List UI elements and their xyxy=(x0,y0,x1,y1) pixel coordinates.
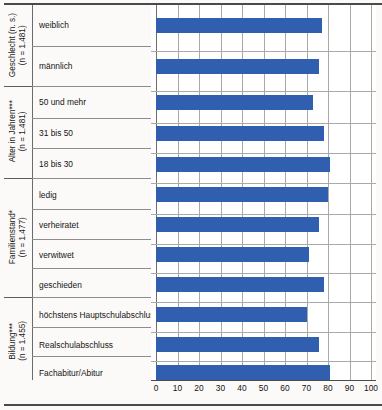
gridline-80 xyxy=(328,5,329,380)
bar-ledig xyxy=(156,187,328,202)
x-tick-label-30: 30 xyxy=(216,383,225,393)
category-separator xyxy=(32,209,151,210)
group-label-alter-text: Alter in Jahren*** xyxy=(8,100,17,162)
category-label-realschulabschluss: Realschulabschluss xyxy=(33,340,113,350)
chart-figure: Geschlecht (n. s.) (n = 1.481) Alter in … xyxy=(0,0,382,410)
category-label-column: weiblich männlich 50 und mehr 31 bis 50 … xyxy=(32,5,152,380)
gridline-90 xyxy=(350,5,351,380)
category-separator xyxy=(32,86,151,87)
category-separator xyxy=(32,118,151,119)
plot-row-separator-3 xyxy=(151,153,376,154)
x-axis-line xyxy=(151,380,376,381)
category-label-ledig: ledig xyxy=(33,190,57,200)
category-label-row: weiblich xyxy=(33,5,152,45)
category-label-weiblich: weiblich xyxy=(33,20,69,30)
plot-row-separator-9 xyxy=(151,332,376,333)
category-label-row: Realschulabschluss xyxy=(33,330,152,359)
category-separator xyxy=(32,148,151,149)
x-tick-label-80: 80 xyxy=(323,383,332,393)
category-label-row: geschieden xyxy=(33,270,152,299)
group-label-alter-n: (n = 1.481) xyxy=(18,100,28,162)
group-separator-1 xyxy=(4,86,32,87)
x-tick-label-100: 100 xyxy=(364,383,378,393)
category-label-row: 50 und mehr xyxy=(33,87,152,117)
x-tick-label-50: 50 xyxy=(259,383,268,393)
group-label-bildung-text: Bildung*** xyxy=(8,323,17,360)
figure-bottom-rule xyxy=(4,404,382,406)
group-separator-3 xyxy=(4,297,32,298)
bar-m-nnlich xyxy=(156,59,319,74)
group-separator-2 xyxy=(4,178,32,179)
category-label-row: verwitwet xyxy=(33,240,152,269)
group-label-column: Geschlecht (n. s.) (n = 1.481) Alter in … xyxy=(4,5,32,380)
x-tick-label-70: 70 xyxy=(302,383,311,393)
bar-50-und-mehr xyxy=(156,95,313,110)
category-label-row: 18 bis 30 xyxy=(33,149,152,179)
category-label-geschieden: geschieden xyxy=(33,280,82,290)
bar-h-chstens-hauptschulabschluss xyxy=(156,307,307,322)
category-label-31-bis-50: 31 bis 50 xyxy=(33,128,73,138)
group-label-familienstand-text: Familienstand* xyxy=(8,210,17,264)
category-separator xyxy=(32,46,151,47)
group-label-geschlecht-text: Geschlecht (n. s.) xyxy=(8,13,17,77)
category-label-row: verheiratet xyxy=(33,210,152,239)
group-label-geschlecht-n: (n = 1.481) xyxy=(18,13,28,77)
category-label-verwitwet: verwitwet xyxy=(33,250,74,260)
plot-row-separator-0 xyxy=(151,51,376,52)
bar-realschulabschluss xyxy=(156,337,319,352)
category-label-hauptschulabschluss: höchstens Hauptschulabschluss xyxy=(33,310,159,320)
bar-verwitwet xyxy=(156,247,309,262)
x-tick-label-90: 90 xyxy=(345,383,354,393)
plot-area xyxy=(151,5,376,380)
bar-31-bis-50 xyxy=(156,126,324,141)
x-tick-label-20: 20 xyxy=(194,383,203,393)
plot-row-separator-10 xyxy=(151,361,376,362)
category-separator xyxy=(32,178,151,179)
category-label-row: Fachabitur/Abitur xyxy=(33,360,152,385)
plot-row-separator-1 xyxy=(151,91,376,92)
bar-fachabitur-abitur xyxy=(156,365,330,380)
x-tick-label-10: 10 xyxy=(173,383,182,393)
plot-row-separator-6 xyxy=(151,244,376,245)
category-label-fachabitur: Fachabitur/Abitur xyxy=(33,368,103,378)
category-separator xyxy=(32,297,151,298)
category-label-row: ledig xyxy=(33,180,152,209)
category-label-verheiratet: verheiratet xyxy=(33,220,79,230)
group-label-familienstand: Familienstand* (n = 1.477) xyxy=(4,178,32,296)
category-separator xyxy=(32,356,151,357)
bar-18-bis-30 xyxy=(156,157,330,172)
bar-weiblich xyxy=(156,18,322,33)
group-label-alter: Alter in Jahren*** (n = 1.481) xyxy=(4,86,32,177)
plot-row-separator-2 xyxy=(151,123,376,124)
x-tick-label-40: 40 xyxy=(237,383,246,393)
category-label-18-bis-30: 18 bis 30 xyxy=(33,159,73,169)
gridline-100 xyxy=(371,5,372,380)
category-separator xyxy=(32,239,151,240)
x-tick-label-0: 0 xyxy=(154,383,159,393)
group-label-familienstand-n: (n = 1.477) xyxy=(18,210,28,264)
category-separator xyxy=(32,268,151,269)
plot-row-separator-8 xyxy=(151,302,376,303)
bar-geschieden xyxy=(156,277,324,292)
group-label-bildung-n: (n = 1.455) xyxy=(18,321,28,361)
group-label-bildung: Bildung*** (n = 1.455) xyxy=(4,297,32,385)
category-label-row: männlich xyxy=(33,46,152,86)
group-label-geschlecht: Geschlecht (n. s.) (n = 1.481) xyxy=(4,5,32,85)
category-separator xyxy=(32,327,151,328)
category-label-row: höchstens Hauptschulabschluss xyxy=(33,300,152,329)
plot-row-separator-5 xyxy=(151,214,376,215)
bar-verheiratet xyxy=(156,217,319,232)
category-label-50-und-mehr: 50 und mehr xyxy=(33,97,86,107)
category-label-row: 31 bis 50 xyxy=(33,118,152,148)
plot-row-separator-7 xyxy=(151,273,376,274)
category-label-maennlich: männlich xyxy=(33,61,73,71)
x-tick-label-60: 60 xyxy=(280,383,289,393)
plot-row-separator-4 xyxy=(151,183,376,184)
